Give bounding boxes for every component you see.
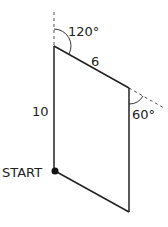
side-bottom [55, 171, 129, 212]
side-label-top: 6 [91, 54, 99, 69]
angle-label-120: 120° [68, 24, 99, 39]
angle-label-60: 60° [132, 107, 155, 122]
diagram-canvas: 120° 6 10 60° START [0, 0, 168, 227]
side-label-left: 10 [32, 104, 49, 119]
angle-arc-60 [129, 96, 143, 104]
dashed-extension-diagonal [129, 88, 164, 108]
start-point-dot [52, 168, 59, 175]
start-label: START [2, 165, 42, 180]
